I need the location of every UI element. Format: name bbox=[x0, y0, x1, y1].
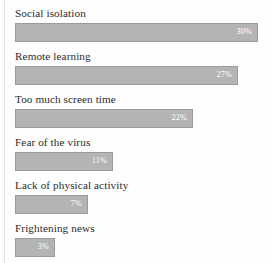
bar-row: Too much screen time 22% bbox=[15, 92, 265, 128]
bar-value-label: 7% bbox=[71, 200, 87, 208]
bar-category-label: Too much screen time bbox=[15, 92, 265, 106]
bar-fill: 22% bbox=[15, 109, 193, 128]
bar-row: Social isolation 30% bbox=[15, 6, 265, 42]
bar-category-label: Fear of the virus bbox=[15, 135, 265, 149]
bar-value-label: 30% bbox=[236, 28, 257, 36]
bar-value-label: 22% bbox=[171, 114, 192, 122]
page-edge-line bbox=[4, 0, 5, 263]
bar-fill: 27% bbox=[15, 66, 238, 85]
bar-row: Frightening news 3% bbox=[15, 221, 265, 257]
bar-chart: Social isolation 30% Remote learning 27%… bbox=[0, 0, 271, 263]
bar-value-label: 27% bbox=[216, 71, 237, 79]
bar-track: 3% bbox=[15, 238, 265, 257]
bar-track: 11% bbox=[15, 152, 265, 171]
bar-fill: 7% bbox=[15, 195, 88, 214]
bar-track: 27% bbox=[15, 66, 265, 85]
bar-category-label: Social isolation bbox=[15, 6, 265, 20]
bar-row: Remote learning 27% bbox=[15, 49, 265, 85]
bar-row: Lack of physical activity 7% bbox=[15, 178, 265, 214]
bar-value-label: 11% bbox=[92, 157, 112, 165]
bar-row: Fear of the virus 11% bbox=[15, 135, 265, 171]
bar-rows: Social isolation 30% Remote learning 27%… bbox=[15, 6, 265, 263]
bar-track: 22% bbox=[15, 109, 265, 128]
bar-fill: 3% bbox=[15, 238, 55, 257]
bar-category-label: Frightening news bbox=[15, 221, 265, 235]
bar-value-label: 3% bbox=[38, 243, 54, 251]
bar-track: 30% bbox=[15, 23, 265, 42]
bar-fill: 11% bbox=[15, 152, 113, 171]
bar-category-label: Remote learning bbox=[15, 49, 265, 63]
bar-fill: 30% bbox=[15, 23, 258, 42]
bar-category-label: Lack of physical activity bbox=[15, 178, 265, 192]
bar-track: 7% bbox=[15, 195, 265, 214]
